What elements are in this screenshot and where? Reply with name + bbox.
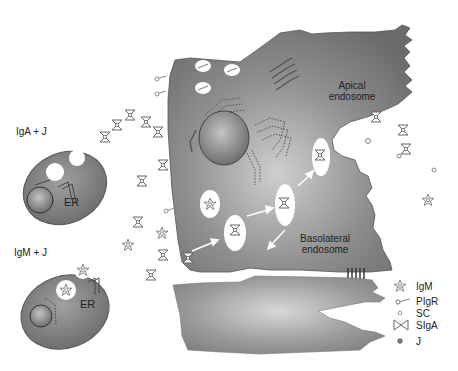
igm-er-label: ER — [80, 299, 95, 310]
igm-cell-label: IgM + J — [14, 247, 47, 258]
legend-j: J — [416, 336, 421, 347]
nucleus — [199, 111, 249, 165]
legend-siga: SIgA — [416, 320, 438, 331]
basolateral-line-1: Basolateral — [285, 233, 365, 244]
apical-line-2: endosome — [322, 91, 382, 102]
legend-pigr: PIgR — [416, 296, 438, 307]
iga-plasma-cell — [11, 138, 119, 238]
legend-sc: SC — [416, 308, 430, 319]
iga-cell-label: IgA + J — [16, 126, 47, 137]
lower-epithelial-cell — [173, 276, 385, 354]
legend-igm: IgM — [416, 281, 433, 292]
j-chain-icon — [398, 339, 402, 343]
apical-line-1: Apical — [322, 80, 382, 91]
igm-plasma-cell — [10, 261, 119, 361]
sc-icon — [398, 311, 402, 315]
diagram-canvas — [0, 0, 458, 371]
igm-star-icon — [394, 280, 406, 291]
iga-er-label: ER — [64, 197, 79, 208]
pigr-icon — [396, 297, 411, 304]
siga-bowtie-icon — [394, 320, 408, 330]
legend-symbols — [394, 280, 410, 343]
basolateral-endosome-label: Basolateral endosome — [285, 233, 365, 255]
apical-endosome-label: Apical endosome — [322, 80, 382, 102]
basolateral-line-2: endosome — [285, 244, 365, 255]
